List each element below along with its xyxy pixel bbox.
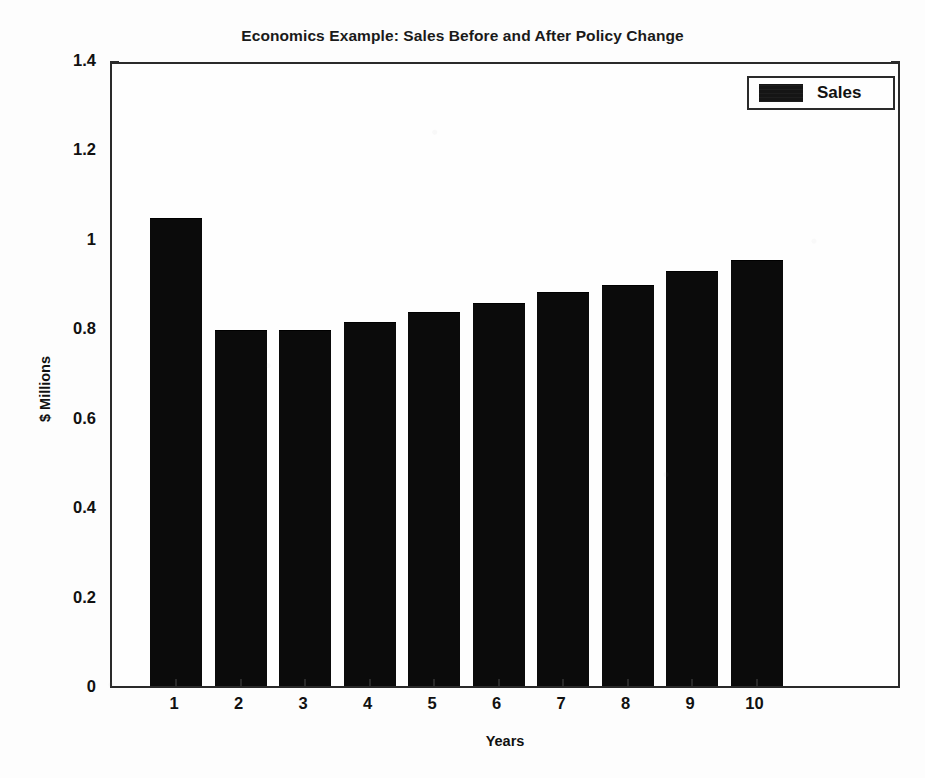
bar	[537, 292, 589, 686]
y-tick-label: 0.4	[73, 498, 96, 517]
y-tick-label: 0	[87, 677, 96, 696]
x-tick-label: 10	[745, 694, 763, 713]
x-tick-label: 1	[169, 694, 178, 713]
y-tick-label: 1.4	[73, 51, 96, 70]
y-tick-label: 1.2	[73, 140, 96, 159]
bar	[344, 322, 396, 686]
y-tick-label: 1	[87, 230, 96, 249]
y-tick-label: 0.6	[73, 409, 96, 428]
bar	[473, 303, 525, 686]
x-tick-mark	[627, 679, 629, 687]
plot-area	[110, 62, 900, 688]
x-tick-label: 5	[427, 694, 436, 713]
x-tick-mark	[562, 679, 564, 687]
x-tick-mark	[369, 679, 371, 687]
x-axis-label: Years	[110, 733, 900, 749]
bar	[602, 285, 654, 686]
x-tick-label: 4	[363, 694, 372, 713]
x-tick-mark	[240, 679, 242, 687]
x-tick-mark	[691, 679, 693, 687]
x-tick-label: 3	[298, 694, 307, 713]
legend-swatch-sales	[759, 84, 803, 102]
x-tick-mark	[304, 679, 306, 687]
x-tick-label: 8	[621, 694, 630, 713]
y-tick-label: 0.2	[73, 588, 96, 607]
bar	[279, 330, 331, 686]
x-tick-label: 6	[492, 694, 501, 713]
x-tick-mark	[433, 679, 435, 687]
legend: Sales	[747, 76, 895, 110]
x-tick-label: 9	[685, 694, 694, 713]
bar	[150, 218, 202, 686]
legend-label-sales: Sales	[817, 83, 861, 103]
x-tick-label: 7	[556, 694, 565, 713]
bar	[408, 312, 460, 686]
y-tick-label: 0.8	[73, 319, 96, 338]
x-tick-label: 2	[234, 694, 243, 713]
x-tick-mark	[175, 679, 177, 687]
bar	[731, 260, 783, 686]
bar	[215, 330, 267, 686]
figure-container: Economics Example: Sales Before and Afte…	[0, 0, 925, 778]
bar	[666, 271, 718, 686]
x-tick-mark	[498, 679, 500, 687]
x-tick-mark	[756, 679, 758, 687]
